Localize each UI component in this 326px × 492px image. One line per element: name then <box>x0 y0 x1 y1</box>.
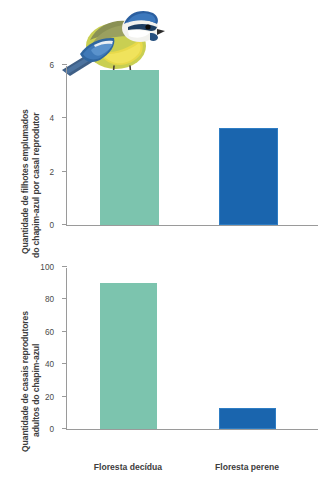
chart-panel-fledglings: Quantidade de filhotes emplumados do cha… <box>0 60 326 260</box>
y-tick-label-bottom-60: 60 <box>45 327 54 336</box>
plot-area-bottom: 0 20 40 60 80 100 <box>66 268 318 430</box>
y-tick-label-bottom-20: 20 <box>45 392 54 401</box>
y-tick-top-6: 6 <box>62 64 67 65</box>
x-axis-category-labels: Floresta decídua Floresta perene <box>66 462 318 480</box>
bar-top-floresta-perene <box>219 128 278 225</box>
y-tick-bottom-20: 20 <box>62 396 67 397</box>
y-tick-top-4: 4 <box>62 117 67 118</box>
y-tick-label-bottom-100: 100 <box>40 263 54 272</box>
y-tick-label-bottom-40: 40 <box>45 360 54 369</box>
y-tick-label-top-2: 2 <box>49 167 54 176</box>
plot-area-top: 0 2 4 6 <box>66 66 318 226</box>
y-axis-title-bottom-line2: adultos do chapim-azul <box>31 344 41 437</box>
bar-bottom-floresta-decidua <box>100 283 157 429</box>
y-tick-bottom-0: 0 <box>62 428 67 429</box>
chart-panel-breeding-pairs: Quantidade de casais reprodutores adulto… <box>0 262 326 467</box>
y-tick-bottom-40: 40 <box>62 363 67 364</box>
bar-top-floresta-decidua <box>100 70 159 225</box>
y-tick-label-bottom-80: 80 <box>45 295 54 304</box>
y-tick-label-bottom-0: 0 <box>49 425 54 434</box>
y-tick-bottom-80: 80 <box>62 298 67 299</box>
x-label-floresta-decidua: Floresta decídua <box>94 462 162 472</box>
y-axis-title-bottom-line1: Quantidade de casais reprodutores <box>20 311 30 452</box>
y-tick-label-top-0: 0 <box>49 221 54 230</box>
y-axis-title-top-line2: do chapim-azul por casal reprodutor <box>31 113 41 258</box>
x-label-floresta-perene: Floresta perene <box>215 462 279 472</box>
y-axis-title-top-line1: Quantidade de filhotes emplumados <box>20 109 30 254</box>
y-tick-label-top-4: 4 <box>49 114 54 123</box>
y-tick-label-top-6: 6 <box>49 61 54 70</box>
y-tick-top-0: 0 <box>62 224 67 225</box>
figure-root: Quantidade de filhotes emplumados do cha… <box>0 0 326 492</box>
bar-bottom-floresta-perene <box>219 408 276 429</box>
y-tick-top-2: 2 <box>62 171 67 172</box>
y-tick-bottom-100: 100 <box>62 266 67 267</box>
y-tick-bottom-60: 60 <box>62 331 67 332</box>
